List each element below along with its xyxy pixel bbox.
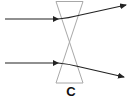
- diagram-label: C: [64, 85, 78, 99]
- upper-ray: [5, 5, 126, 19]
- lower-ray: [5, 63, 124, 77]
- lens-diagram: C: [0, 0, 127, 103]
- lens-shape: [56, 2, 83, 84]
